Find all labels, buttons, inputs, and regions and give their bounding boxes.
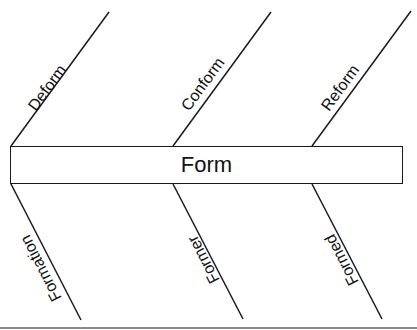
central-box: Form bbox=[10, 146, 403, 184]
branch-label-formation: Formation bbox=[17, 233, 65, 305]
branch-line-reform bbox=[312, 11, 411, 146]
branch-label-former: Former bbox=[184, 232, 223, 286]
central-label: Form bbox=[181, 152, 232, 178]
branch-line-conform bbox=[173, 12, 271, 146]
bottom-divider bbox=[0, 327, 417, 329]
fishbone-diagram: Deform Conform Reform Formation Former F… bbox=[0, 0, 417, 330]
branch-label-deform: Deform bbox=[25, 61, 70, 113]
branch-line-formed bbox=[312, 184, 382, 319]
